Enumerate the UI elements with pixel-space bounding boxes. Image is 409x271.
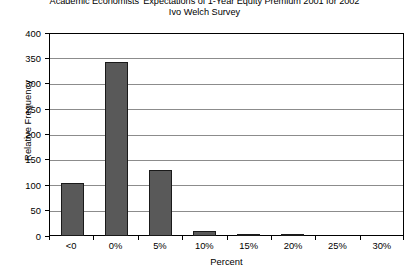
x-axis-tick-label: 0% xyxy=(93,240,137,252)
bar-slot xyxy=(50,34,94,235)
x-axis-title: Percent xyxy=(49,256,404,267)
bar-slot xyxy=(182,34,226,235)
y-axis-tick-label: 0 xyxy=(8,232,41,241)
y-axis-tick-label: 150 xyxy=(8,155,41,164)
bar xyxy=(105,62,128,236)
chart-title-block: Academic Economists' Expectations of 1-Y… xyxy=(0,0,409,18)
x-axis-tick-labels: <00%5%10%15%20%25%30% xyxy=(49,240,404,252)
y-axis-tick-label: 300 xyxy=(8,79,41,88)
y-axis-tick-label: 200 xyxy=(8,130,41,139)
bar-slot xyxy=(138,34,182,235)
x-axis-tick-label: 25% xyxy=(315,240,359,252)
bar-slot xyxy=(227,34,271,235)
y-axis-tick-labels: 050100150200250300350400 xyxy=(8,33,41,236)
x-axis-tick-label: 20% xyxy=(271,240,315,252)
bar xyxy=(61,183,84,236)
y-axis-tick-label: 400 xyxy=(8,29,41,38)
x-axis-tick-label: 10% xyxy=(182,240,226,252)
x-axis-tick-label: <0 xyxy=(49,240,93,252)
bar-series xyxy=(50,34,403,235)
x-axis-tick-label: 15% xyxy=(227,240,271,252)
bar-slot xyxy=(315,34,359,235)
x-axis-tick-label: 5% xyxy=(138,240,182,252)
x-axis-tick-label: 30% xyxy=(360,240,404,252)
bar xyxy=(149,170,172,236)
y-axis-tick-label: 50 xyxy=(8,206,41,215)
bar-slot xyxy=(359,34,403,235)
plot-area xyxy=(49,33,404,236)
chart-title: Academic Economists' Expectations of 1-Y… xyxy=(0,0,409,7)
chart-subtitle: Ivo Welch Survey xyxy=(0,7,409,18)
bar-slot xyxy=(94,34,138,235)
y-axis-tick-label: 100 xyxy=(8,181,41,190)
y-axis-tick-label: 350 xyxy=(8,54,41,63)
bar-slot xyxy=(271,34,315,235)
y-axis-tick-label: 250 xyxy=(8,105,41,114)
